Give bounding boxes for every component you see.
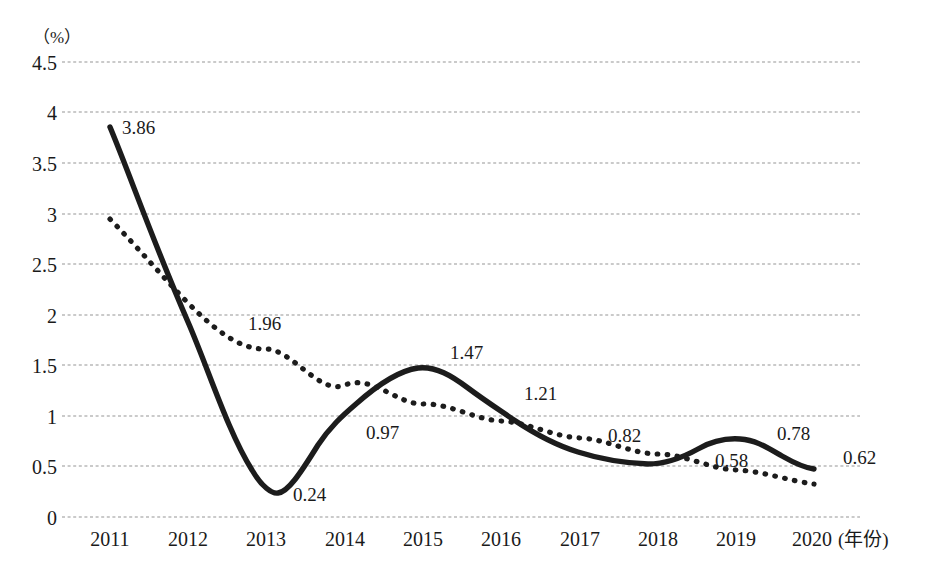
label-0-58: 0.58: [715, 450, 748, 471]
label-1-96: 1.96: [248, 313, 281, 334]
x-tick-2018: 2018: [638, 528, 678, 550]
y-tick-4-5: 4.5: [32, 52, 57, 74]
y-tick-2-5: 2.5: [32, 254, 57, 276]
y-tick-3: 3: [47, 204, 57, 226]
label-1-47: 1.47: [450, 342, 483, 363]
y-tick-4: 4: [47, 102, 57, 124]
x-tick-2016: 2016: [481, 528, 521, 550]
label-0-24: 0.24: [293, 484, 327, 505]
label-0-82: 0.82: [608, 425, 641, 446]
x-tick-2013: 2013: [246, 528, 286, 550]
y-tick-0: 0: [47, 507, 57, 529]
y-axis-tick-labels: 4.5 4 3.5 3 2.5 2 1.5 1 0.5 0: [32, 52, 57, 529]
y-axis-unit-label: （%）: [33, 28, 81, 47]
chart-container: （%） 4.5 4 3.5 3 2.5 2 1.5 1 0.5 0 2011 2…: [0, 0, 925, 581]
x-tick-2011: 2011: [90, 528, 129, 550]
gridlines: [62, 62, 860, 517]
x-tick-2019: 2019: [716, 528, 756, 550]
label-0-97: 0.97: [366, 422, 399, 443]
y-tick-1-5: 1.5: [32, 355, 57, 377]
x-tick-2014: 2014: [325, 528, 365, 550]
label-0-78: 0.78: [777, 423, 810, 444]
y-tick-1: 1: [47, 406, 57, 428]
x-tick-2012: 2012: [168, 528, 208, 550]
y-tick-2: 2: [47, 305, 57, 327]
series-actual-solid: [110, 127, 814, 493]
x-axis-tick-labels: 2011 2012 2013 2014 2015 2016 2017 2018 …: [90, 528, 888, 551]
y-tick-0-5: 0.5: [32, 456, 57, 478]
label-0-62: 0.62: [843, 447, 876, 468]
label-1-21: 1.21: [524, 383, 557, 404]
line-chart: （%） 4.5 4 3.5 3 2.5 2 1.5 1 0.5 0 2011 2…: [0, 0, 925, 581]
x-axis-unit-label: (年份): [838, 529, 889, 551]
y-tick-3-5: 3.5: [32, 153, 57, 175]
x-tick-2017: 2017: [560, 528, 600, 550]
label-3-86: 3.86: [122, 117, 155, 138]
x-tick-2015: 2015: [403, 528, 443, 550]
x-tick-2020: 2020: [792, 528, 832, 550]
